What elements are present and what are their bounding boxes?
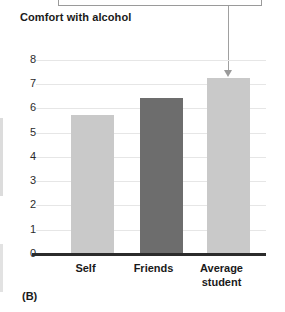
- y-axis-title: Comfort with alcohol: [20, 11, 170, 25]
- scan-artifact-edge: [0, 0, 3, 312]
- figure-panel-b: Comfort with alcohol 8 7 6 5 4 3 2 1 0 S…: [0, 0, 285, 312]
- y-tick-label-3: 3: [14, 174, 36, 186]
- y-tick-label-7: 7: [14, 77, 36, 89]
- y-tick-label-0: 0: [14, 247, 36, 259]
- bar-self: [71, 115, 114, 254]
- y-tick-label-8: 8: [14, 53, 36, 65]
- callout-box: [58, 0, 262, 6]
- bar-friends: [140, 98, 183, 254]
- y-tick-label-4: 4: [14, 150, 36, 162]
- y-tick-label-5: 5: [14, 126, 36, 138]
- gridline-8: [36, 60, 266, 61]
- plot-area: [36, 60, 266, 254]
- x-axis-baseline: [32, 253, 266, 256]
- bar-average-student: [207, 78, 250, 254]
- x-tick-label-average-student: Average student: [187, 261, 256, 289]
- x-tick-label-friends: Friends: [119, 261, 188, 275]
- panel-label: (B): [22, 290, 37, 302]
- y-tick-label-6: 6: [14, 101, 36, 113]
- x-tick-label-self: Self: [51, 261, 120, 275]
- y-tick-label-1: 1: [14, 223, 36, 235]
- y-tick-label-2: 2: [14, 198, 36, 210]
